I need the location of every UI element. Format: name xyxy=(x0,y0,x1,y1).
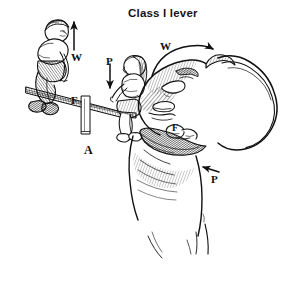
label-p-left: P xyxy=(106,56,113,67)
label-w-right: W xyxy=(160,41,171,52)
label-f-left: F xyxy=(71,95,78,106)
class-i-lever-illustration xyxy=(0,0,293,284)
label-p-right: P xyxy=(211,174,218,185)
panel-label-a: A xyxy=(84,144,93,156)
label-w-left: W xyxy=(71,52,82,63)
label-f-right: F xyxy=(172,123,178,133)
figure-title: Class I lever xyxy=(128,8,198,20)
seesaw-fulcrum-post xyxy=(82,96,91,134)
